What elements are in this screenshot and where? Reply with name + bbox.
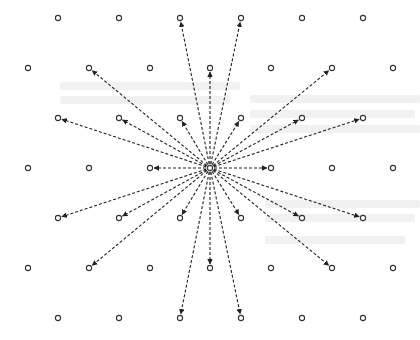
center-point — [207, 165, 212, 170]
lattice-point — [238, 215, 243, 220]
dashed-arrow — [92, 171, 207, 266]
lattice-point — [390, 165, 395, 170]
dashed-arrow — [212, 122, 239, 165]
lattice-point — [86, 165, 91, 170]
dashed-arrow — [214, 169, 359, 217]
lattice-point — [177, 215, 182, 220]
lattice-point — [147, 165, 152, 170]
dashed-arrow — [182, 171, 208, 214]
lattice-point — [299, 315, 304, 320]
lattice-point — [299, 215, 304, 220]
lattice-point — [360, 115, 365, 120]
dashed-arrow — [182, 122, 208, 165]
lattice-point — [268, 165, 273, 170]
lattice-point — [360, 215, 365, 220]
lattice-point — [55, 215, 60, 220]
lattice-point — [360, 15, 365, 20]
lattice-point — [116, 315, 121, 320]
lattice-point — [177, 15, 182, 20]
lattice-point — [329, 265, 334, 270]
lattice-point — [25, 165, 30, 170]
lattice-point — [238, 315, 243, 320]
lattice-point — [360, 315, 365, 320]
lattice-point — [329, 165, 334, 170]
dashed-arrow — [92, 71, 207, 166]
lattice-points — [25, 15, 395, 320]
lattice-point — [55, 315, 60, 320]
lattice-point — [116, 115, 121, 120]
lattice-point — [177, 115, 182, 120]
lattice-point — [299, 15, 304, 20]
lattice-point — [116, 215, 121, 220]
dashed-arrow — [212, 171, 239, 214]
dashed-arrow — [123, 170, 207, 216]
dashed-arrow — [214, 119, 359, 167]
lattice-point — [268, 265, 273, 270]
lattice-point — [390, 65, 395, 70]
dashed-arrow — [213, 171, 329, 266]
lattice-point — [25, 65, 30, 70]
lattice-point — [86, 65, 91, 70]
lattice-point — [55, 115, 60, 120]
lattice-point — [147, 65, 152, 70]
lattice-point — [207, 65, 212, 70]
lattice-point — [86, 265, 91, 270]
lattice-point — [390, 265, 395, 270]
lattice-point — [116, 15, 121, 20]
lattice-point — [55, 15, 60, 20]
lattice-point — [238, 15, 243, 20]
lattice-point — [147, 265, 152, 270]
lattice-point — [268, 65, 273, 70]
lattice-point — [329, 65, 334, 70]
lattice-point — [177, 315, 182, 320]
lattice-point — [238, 115, 243, 120]
lattice-diagram — [0, 0, 420, 340]
lattice-point — [299, 115, 304, 120]
lattice-point — [25, 265, 30, 270]
dashed-arrow — [123, 120, 207, 166]
dashed-arrow — [213, 71, 329, 166]
lattice-point — [207, 265, 212, 270]
